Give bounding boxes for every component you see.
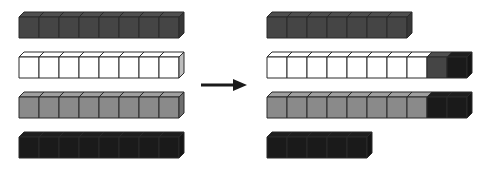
cube-black <box>159 132 184 158</box>
cube-gray <box>159 92 184 118</box>
after-rods <box>267 12 472 158</box>
cube-dark-gray <box>159 12 184 38</box>
cube-black <box>347 132 372 158</box>
cube-white <box>159 52 184 78</box>
after-rod-2 <box>267 52 472 78</box>
cube-rods-diagram <box>0 0 488 169</box>
before-rods <box>19 12 184 158</box>
after-rod-1 <box>267 12 412 38</box>
cube-dark-gray <box>387 12 412 38</box>
before-rod-2 <box>19 52 184 78</box>
transform-arrow-icon <box>201 79 247 91</box>
after-rod-3 <box>267 92 472 118</box>
before-rod-4 <box>19 132 184 158</box>
before-rod-1 <box>19 12 184 38</box>
before-rod-3 <box>19 92 184 118</box>
after-rod-4 <box>267 132 372 158</box>
cube-black <box>447 52 472 78</box>
cube-black <box>447 92 472 118</box>
